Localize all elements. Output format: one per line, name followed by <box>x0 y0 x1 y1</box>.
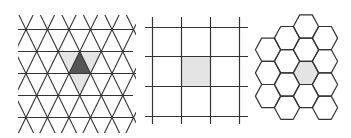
hexagon-cell <box>312 50 337 73</box>
triangular-diagonal-line <box>0 10 14 136</box>
grid-tilings-diagram <box>0 0 351 138</box>
square-highlight-cells <box>182 57 211 87</box>
square-grid-panel <box>145 17 248 124</box>
triangle-neighbor-cell <box>69 74 91 96</box>
triangular-diagonal-line <box>0 10 14 136</box>
hexagon-cell <box>312 73 337 96</box>
hexagon-cell <box>312 96 337 119</box>
hexagon-cell <box>312 27 337 50</box>
hexagonal-grid-panel <box>255 15 337 119</box>
square-highlighted-cell <box>182 57 211 87</box>
